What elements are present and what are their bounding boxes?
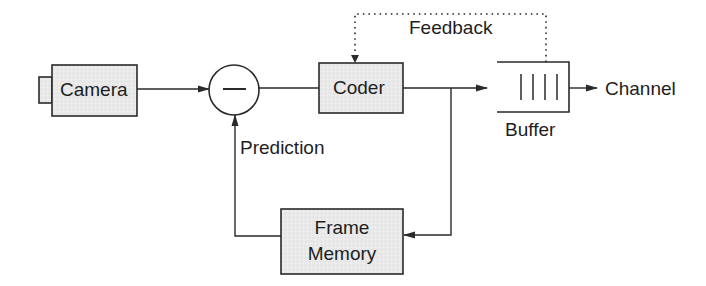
buffer-label: Buffer — [505, 120, 555, 139]
buffer-block — [497, 62, 569, 112]
coder-to-frame-memory-arrow — [404, 88, 451, 235]
prediction-label: Prediction — [240, 138, 325, 157]
prediction-arrow — [235, 115, 281, 236]
channel-label: Channel — [605, 79, 676, 98]
camera-lens-shape — [39, 77, 52, 103]
subtractor-node — [209, 65, 259, 115]
feedback-arrowhead — [351, 55, 359, 63]
camera-label: Camera — [60, 80, 128, 99]
frame-memory-label-line1: Frame — [281, 218, 403, 237]
feedback-label: Feedback — [409, 18, 492, 37]
frame-memory-label-line2: Memory — [281, 244, 403, 263]
coder-label: Coder — [333, 78, 385, 97]
